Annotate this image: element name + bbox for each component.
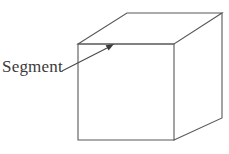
segment-label: Segment	[2, 57, 63, 77]
leader-arrowhead-icon	[106, 44, 114, 51]
cube-right-face-edges	[174, 13, 222, 140]
cube-top-face-edges	[78, 13, 222, 44]
figure-canvas: Segment	[0, 0, 229, 154]
segment-leader-line	[62, 46, 111, 71]
cube-front-face-edges	[78, 44, 174, 140]
cube-diagram	[0, 0, 229, 154]
